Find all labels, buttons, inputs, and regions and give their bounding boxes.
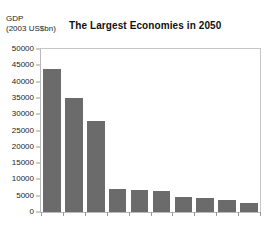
y-axis-tick-label: 5000 — [16, 192, 34, 200]
bar — [153, 191, 171, 212]
y-axis-tick-label: 30000 — [12, 110, 34, 118]
bar — [175, 197, 193, 212]
y-axis-tick-label: 50000 — [12, 45, 34, 53]
bars-container — [41, 49, 260, 212]
x-axis-tick-mark — [260, 212, 261, 216]
y-axis-tick-label: 35000 — [12, 94, 34, 102]
x-axis-tick-mark — [172, 212, 173, 216]
y-axis-caption: GDP (2003 US$bn) — [6, 14, 56, 34]
x-axis-tick-mark — [107, 212, 108, 216]
x-axis-tick-mark — [41, 212, 42, 216]
y-axis-tick-label: 40000 — [12, 78, 34, 86]
bar — [43, 69, 61, 212]
bar — [218, 200, 236, 212]
y-axis-tick-mark — [36, 97, 40, 98]
y-axis-tick-mark — [36, 163, 40, 164]
bar — [196, 198, 214, 212]
y-axis: 5000045000400003500030000250002000015000… — [0, 48, 40, 214]
x-axis-tick-mark — [151, 212, 152, 216]
x-axis-tick-mark — [63, 212, 64, 216]
x-axis-tick-mark — [216, 212, 217, 216]
x-axis-tick-mark — [238, 212, 239, 216]
y-axis-tick-mark — [36, 146, 40, 147]
bar — [131, 190, 149, 212]
y-axis-tick-label: 15000 — [12, 159, 34, 167]
y-axis-tick-mark — [36, 212, 40, 213]
bar — [65, 98, 83, 212]
y-axis-tick-mark — [36, 130, 40, 131]
y-axis-tick-mark — [36, 81, 40, 82]
y-axis-tick-mark — [36, 179, 40, 180]
x-axis-tick-mark — [85, 212, 86, 216]
y-axis-tick-label: 20000 — [12, 143, 34, 151]
bar — [87, 121, 105, 212]
y-axis-tick-label: 45000 — [12, 61, 34, 69]
y-axis-tick-mark — [36, 49, 40, 50]
y-axis-tick-mark — [36, 65, 40, 66]
y-axis-tick-mark — [36, 195, 40, 196]
y-axis-tick-label: 0 — [30, 208, 34, 216]
y-axis-tick-label: 10000 — [12, 175, 34, 183]
y-axis-caption-line-2: (2003 US$bn) — [6, 24, 56, 34]
y-axis-tick-label: 25000 — [12, 127, 34, 135]
chart-title: The Largest Economies in 2050 — [69, 20, 221, 31]
x-axis-tick-mark — [194, 212, 195, 216]
y-axis-caption-line-1: GDP — [6, 14, 56, 24]
bar — [240, 203, 258, 212]
bar — [109, 189, 127, 212]
bar-chart: GDP (2003 US$bn) The Largest Economies i… — [0, 0, 268, 226]
x-axis-tick-mark — [129, 212, 130, 216]
y-axis-tick-mark — [36, 114, 40, 115]
